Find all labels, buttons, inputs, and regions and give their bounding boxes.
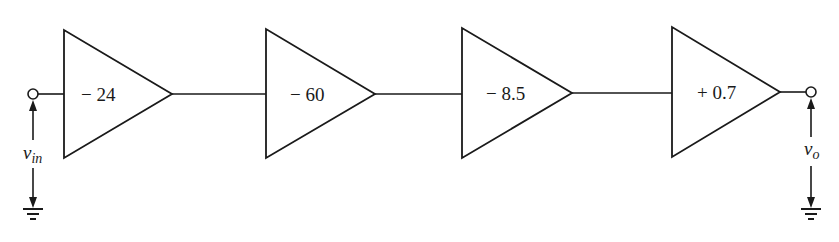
stage-1-gain: − 24 bbox=[81, 84, 116, 105]
output-terminal: vo bbox=[780, 87, 821, 219]
stage-4-gain: + 0.7 bbox=[697, 82, 736, 103]
amplifier-cascade-diagram: vin − 24 − 60 − 8.5 bbox=[0, 0, 839, 242]
output-terminal-circle-icon bbox=[806, 87, 816, 97]
vo-arrow-down-icon bbox=[807, 197, 815, 208]
vin-arrow-down-icon bbox=[29, 197, 37, 208]
vin-label: vin bbox=[23, 142, 42, 166]
input-terminal-circle-icon bbox=[28, 89, 38, 99]
vo-label: vo bbox=[804, 138, 819, 162]
ground-icon-output bbox=[801, 209, 821, 219]
input-terminal: vin bbox=[23, 89, 64, 219]
stage-3-gain: − 8.5 bbox=[486, 83, 525, 104]
ground-icon-input bbox=[23, 209, 43, 219]
amplifier-stage-2: − 60 bbox=[266, 29, 375, 158]
stage-2-gain: − 60 bbox=[290, 84, 324, 105]
vin-arrow-up-icon bbox=[29, 100, 37, 111]
amplifier-stage-3: − 8.5 bbox=[462, 28, 572, 158]
vo-arrow-up-icon bbox=[807, 98, 815, 109]
amplifier-stage-4: + 0.7 bbox=[672, 27, 780, 157]
amplifier-stage-1: − 24 bbox=[64, 30, 172, 158]
